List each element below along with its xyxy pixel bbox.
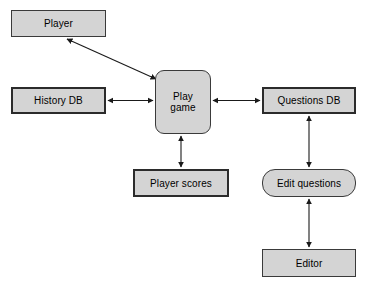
node-questions-db-label: Questions DB [276,95,343,106]
node-history-db-label: History DB [32,95,85,106]
node-editor[interactable]: Editor [262,249,356,277]
node-edit-questions-label: Edit questions [275,178,343,189]
node-editor-label: Editor [294,258,325,269]
node-questions-db[interactable]: Questions DB [262,87,356,114]
node-player-label: Player [42,18,75,29]
node-player[interactable]: Player [11,10,106,37]
diagram-canvas: Player History DB Play game Questions DB… [0,0,365,284]
node-edit-questions[interactable]: Edit questions [262,169,356,197]
edge-layer [0,0,365,284]
node-play-game[interactable]: Play game [155,70,211,134]
edge-player-play-game [67,39,156,79]
node-player-scores-label: Player scores [148,178,214,189]
node-history-db[interactable]: History DB [11,87,106,114]
node-player-scores[interactable]: Player scores [133,169,229,197]
node-play-game-label: Play game [168,91,197,113]
